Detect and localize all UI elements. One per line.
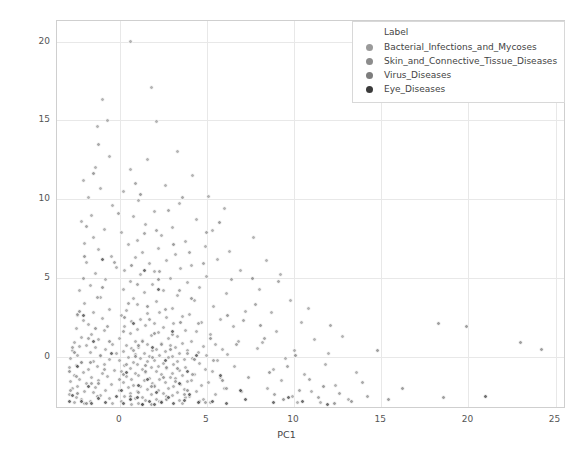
scatter-point (79, 219, 84, 224)
scatter-point (340, 334, 345, 339)
scatter-point (107, 357, 112, 362)
legend-title: Label (384, 27, 557, 37)
scatter-point (220, 347, 225, 352)
scatter-point (74, 374, 79, 379)
scatter-point (187, 392, 192, 397)
scatter-point (201, 261, 206, 266)
scatter-point (122, 268, 127, 273)
scatter-point (288, 298, 293, 303)
scatter-point (189, 339, 194, 344)
scatter-point (262, 336, 267, 341)
scatter-point (95, 295, 100, 300)
scatter-point (175, 149, 180, 154)
scatter-point (79, 335, 84, 340)
gridline-vertical (207, 21, 208, 407)
scatter-point (135, 395, 140, 400)
scatter-point (149, 384, 154, 389)
scatter-point (135, 238, 140, 243)
legend-entries: Bacterial_Infections_and_MycosesSkin_and… (360, 40, 557, 96)
scatter-point (102, 367, 107, 372)
scatter-point (213, 342, 218, 347)
scatter-point (171, 384, 176, 389)
scatter-point (100, 316, 105, 321)
legend-entry[interactable]: Eye_Diseases (360, 82, 557, 96)
legend-entry-label: Virus_Diseases (384, 70, 451, 80)
scatter-point (194, 389, 199, 394)
gridline-horizontal (57, 199, 564, 200)
scatter-point (68, 356, 73, 361)
scatter-point (234, 342, 239, 347)
scatter-point (121, 329, 126, 334)
scatter-point (210, 369, 215, 374)
scatter-point (199, 383, 204, 388)
scatter-point (152, 209, 157, 214)
scatter-point (77, 344, 82, 349)
scatter-point (86, 195, 91, 200)
scatter-point (136, 198, 141, 203)
scatter-point (251, 235, 256, 240)
scatter-point (140, 402, 145, 407)
scatter-point (180, 314, 185, 319)
scatter-point (143, 222, 148, 227)
legend-entry-label: Eye_Diseases (384, 84, 445, 94)
scatter-point (150, 282, 155, 287)
scatter-point (129, 263, 134, 268)
scatter-point (131, 214, 136, 219)
scatter-point (159, 400, 164, 405)
scatter-point (107, 339, 112, 344)
scatter-point (238, 388, 243, 393)
scatter-point (183, 239, 188, 244)
scatter-point (164, 258, 169, 263)
scatter-point (306, 306, 311, 311)
legend-entry-label: Skin_and_Connective_Tissue_Diseases (384, 56, 557, 66)
scatter-point (170, 329, 175, 334)
scatter-point (135, 282, 140, 287)
scatter-point (177, 381, 182, 386)
scatter-point (89, 375, 94, 380)
legend-entry[interactable]: Virus_Diseases (360, 68, 557, 82)
scatter-point (128, 331, 133, 336)
scatter-point (156, 364, 161, 369)
gridline-horizontal (57, 278, 564, 279)
scatter-point (178, 320, 183, 325)
scatter-point (82, 241, 87, 246)
scatter-point (84, 343, 89, 348)
scatter-point (107, 307, 112, 312)
scatter-point (121, 349, 126, 354)
scatter-point (119, 230, 124, 235)
scatter-point (243, 309, 248, 314)
scatter-point (166, 386, 171, 391)
scatter-point (91, 171, 96, 176)
scatter-point (156, 277, 161, 282)
scatter-point (75, 391, 80, 396)
scatter-point (100, 97, 105, 102)
legend-entry[interactable]: Skin_and_Connective_Tissue_Diseases (360, 54, 557, 68)
scatter-point (103, 388, 108, 393)
scatter-point (91, 339, 96, 344)
x-tick-label: 10 (287, 414, 298, 424)
scatter-point (126, 301, 131, 306)
scatter-point (68, 379, 73, 384)
scatter-point (129, 402, 134, 407)
scatter-point (161, 288, 166, 293)
y-tick-label: 0 (26, 351, 50, 361)
scatter-point (114, 351, 119, 356)
scatter-point (143, 323, 148, 328)
legend[interactable]: Label Bacterial_Infections_and_MycosesSk… (352, 21, 565, 103)
scatter-point (147, 261, 152, 266)
scatter-point (161, 375, 166, 380)
scatter-point (107, 396, 112, 401)
scatter-point (77, 288, 82, 293)
scatter-point (121, 401, 126, 406)
scatter-point (307, 377, 312, 382)
scatter-point (171, 321, 176, 326)
y-tick-label: 5 (26, 272, 50, 282)
scatter-point (161, 325, 166, 330)
scatter-point (157, 310, 162, 315)
scatter-point (166, 336, 171, 341)
legend-entry[interactable]: Bacterial_Infections_and_Mycoses (360, 40, 557, 54)
scatter-point (152, 321, 157, 326)
scatter-point (138, 317, 143, 322)
scatter-point (197, 285, 202, 290)
scatter-point (124, 308, 129, 313)
